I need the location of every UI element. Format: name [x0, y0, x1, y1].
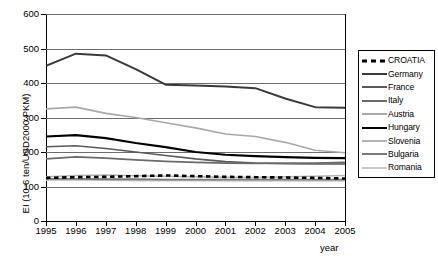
legend-swatch-icon [361, 162, 387, 173]
series-line-germany [46, 54, 345, 108]
legend-label: Austria [387, 110, 414, 119]
legend-item-germany[interactable]: Germany [361, 67, 432, 80]
legend-item-romania[interactable]: Romania [361, 161, 432, 174]
legend-swatch-icon [361, 82, 387, 93]
legend-label: Slovenia [387, 137, 420, 146]
legend-swatch-icon [361, 149, 387, 160]
legend-swatch-icon [361, 122, 387, 133]
y-tick [41, 152, 46, 153]
x-tick-label: 2005 [327, 226, 363, 236]
legend-line-sample [362, 59, 387, 62]
legend-label: CROATIA [387, 56, 425, 65]
plot-area [46, 14, 345, 221]
legend-label: Hungary [387, 123, 420, 132]
legend-item-austria[interactable]: Austria [361, 108, 432, 121]
legend-swatch-icon [361, 69, 387, 80]
y-tick [41, 83, 46, 84]
legend-line-sample [362, 167, 387, 169]
y-tick-label: 500 [0, 44, 39, 54]
legend-swatch-icon [361, 109, 387, 120]
series-layer [46, 14, 345, 221]
chart-legend: CROATIAGermanyFranceItalyAustriaHungaryS… [358, 50, 435, 178]
legend-label: Germany [387, 70, 423, 79]
legend-line-sample [362, 140, 387, 142]
legend-line-sample [362, 153, 387, 155]
legend-item-slovenia[interactable]: Slovenia [361, 134, 432, 147]
legend-swatch-icon [361, 95, 387, 106]
y-tick [41, 14, 46, 15]
legend-label: Italy [387, 96, 403, 105]
y-tick-label: 600 [0, 9, 39, 19]
plot-right-border [345, 14, 346, 222]
legend-label: Bulgaria [387, 150, 419, 159]
series-line-austria [46, 107, 345, 153]
chart-figure: EI (10-6 ten/USD2000 PKM) 01002003004005… [0, 0, 438, 263]
legend-line-sample [362, 100, 387, 102]
legend-swatch-icon [361, 55, 387, 66]
y-tick-label: 300 [0, 113, 39, 123]
legend-item-hungary[interactable]: Hungary [361, 121, 432, 134]
legend-item-bulgaria[interactable]: Bulgaria [361, 148, 432, 161]
series-line-france [46, 146, 345, 164]
x-axis-title: year [320, 242, 338, 253]
legend-line-sample [362, 127, 387, 129]
y-tick [41, 118, 46, 119]
series-line-bulgaria [46, 179, 345, 180]
y-tick-label: 400 [0, 78, 39, 88]
legend-item-italy[interactable]: Italy [361, 94, 432, 107]
legend-label: Romania [387, 163, 422, 172]
legend-swatch-icon [361, 136, 387, 147]
y-tick [41, 187, 46, 188]
legend-line-sample [362, 86, 387, 88]
series-line-slovenia [46, 175, 345, 177]
y-tick-label: 100 [0, 182, 39, 192]
y-tick-label: 0 [0, 216, 39, 226]
legend-line-sample [362, 113, 387, 115]
legend-item-france[interactable]: France [361, 81, 432, 94]
y-tick [41, 49, 46, 50]
legend-line-sample [362, 73, 387, 75]
y-tick-label: 200 [0, 147, 39, 157]
legend-item-croatia[interactable]: CROATIA [361, 54, 432, 67]
legend-label: France [387, 83, 414, 92]
